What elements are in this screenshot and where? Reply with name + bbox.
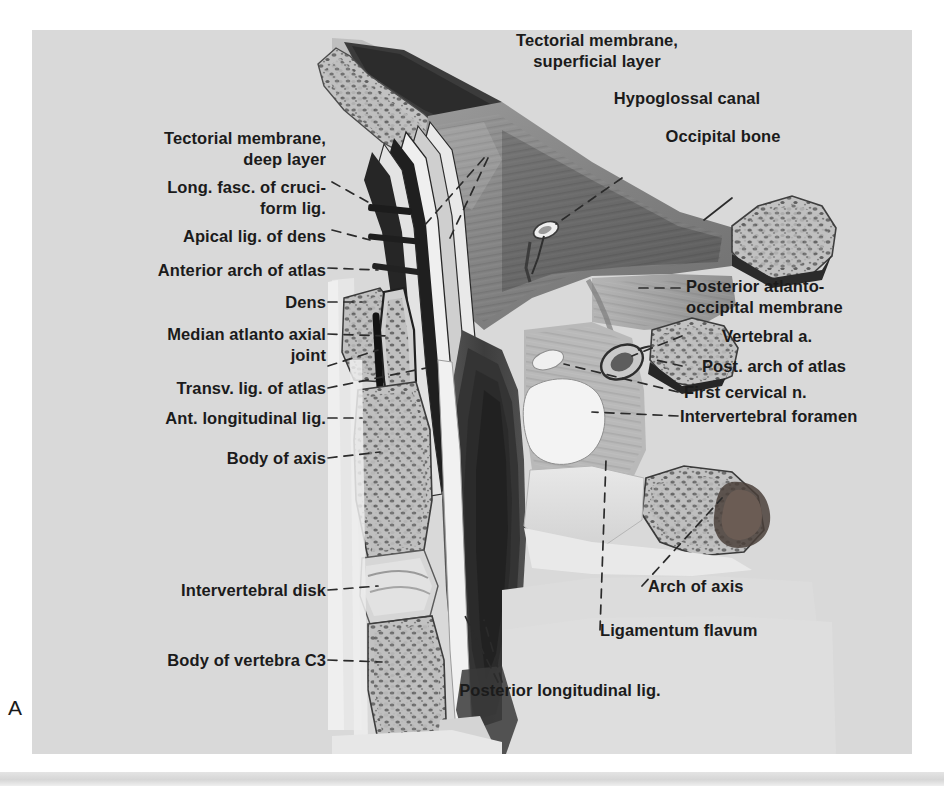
label-intervertebral-disk: Intervertebral disk <box>32 580 326 601</box>
label-vertebral-a: Vertebral a. <box>722 326 912 347</box>
label-ant-longitudinal-lig: Ant. longitudinal lig. <box>32 408 326 429</box>
anatomical-plate: Tectorial membrane, superficial layer Hy… <box>32 30 912 754</box>
label-tectorial-membrane-superficial-layer: Tectorial membrane, superficial layer <box>472 30 722 71</box>
page-canvas: Tectorial membrane, superficial layer Hy… <box>0 0 944 786</box>
label-long-fasc-cruciform-lig: Long. fasc. of cruci- form lig. <box>32 177 326 218</box>
label-anterior-arch-of-atlas: Anterior arch of atlas <box>32 260 326 281</box>
label-body-of-axis: Body of axis <box>32 448 326 469</box>
label-arch-of-axis: Arch of axis <box>648 576 898 597</box>
label-occipital-bone: Occipital bone <box>598 126 848 147</box>
label-first-cervical-n: First cervical n. <box>684 382 912 403</box>
page-bottom-strip <box>0 772 944 786</box>
label-dens: Dens <box>32 292 326 313</box>
label-intervertebral-foramen: Intervertebral foramen <box>680 406 912 427</box>
label-post-arch-of-atlas: Post. arch of atlas <box>702 356 912 377</box>
label-tectorial-membrane-deep-layer: Tectorial membrane, deep layer <box>32 128 326 169</box>
label-posterior-atlanto-occipital-membrane: Posterior atlanto- occipital membrane <box>686 276 912 317</box>
label-median-atlantoaxial-joint: Median atlanto axial joint <box>32 324 326 365</box>
label-body-of-vertebra-c3: Body of vertebra C3 <box>32 650 326 671</box>
label-posterior-longitudinal-lig: Posterior longitudinal lig. <box>410 680 710 701</box>
label-ligamentum-flavum: Ligamentum flavum <box>600 620 880 641</box>
label-apical-lig-of-dens: Apical lig. of dens <box>32 226 326 247</box>
label-transv-lig-of-atlas: Transv. lig. of atlas <box>32 378 326 399</box>
label-hypoglossal-canal: Hypoglossal canal <box>562 88 812 109</box>
figure-letter: A <box>8 696 23 720</box>
